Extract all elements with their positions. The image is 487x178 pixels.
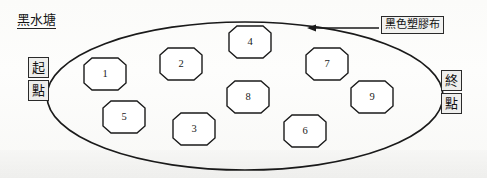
cell-5-label: 5 [121, 111, 126, 122]
end-point-char-1: 終 [441, 70, 462, 91]
tarp-callout-label: 黑色塑膠布 [381, 16, 444, 34]
cell-9-label: 9 [369, 91, 374, 102]
diagram-canvas: 1 2 3 4 5 6 [0, 0, 487, 178]
cell-7-label: 7 [324, 58, 329, 69]
pond-title: 黑水塘 [17, 12, 56, 29]
cell-4[interactable]: 4 [229, 26, 271, 58]
cell-8-label: 8 [245, 91, 250, 102]
cell-3[interactable]: 3 [173, 113, 215, 145]
cell-3-label: 3 [191, 123, 196, 134]
cell-8[interactable]: 8 [227, 81, 269, 113]
cell-group: 1 2 3 4 5 6 [84, 26, 393, 147]
cell-9[interactable]: 9 [351, 81, 393, 113]
cell-1-label: 1 [102, 68, 107, 79]
cell-5[interactable]: 5 [103, 101, 145, 133]
tarp-callout-arrow [307, 25, 379, 32]
start-point-char-1: 起 [28, 57, 49, 78]
cell-1[interactable]: 1 [84, 58, 126, 90]
cell-2-label: 2 [178, 58, 183, 69]
start-point-char-2: 點 [28, 80, 49, 101]
cell-7[interactable]: 7 [306, 48, 348, 80]
end-point-char-2: 點 [441, 93, 462, 114]
cell-6[interactable]: 6 [284, 115, 326, 147]
cell-6-label: 6 [302, 125, 307, 136]
cell-2[interactable]: 2 [160, 48, 202, 80]
cell-4-label: 4 [247, 36, 253, 47]
